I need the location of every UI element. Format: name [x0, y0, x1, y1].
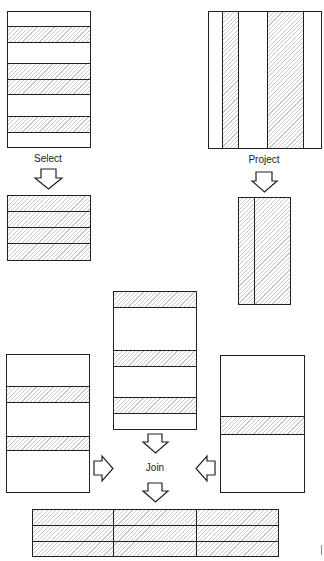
row-divider [114, 366, 196, 367]
row-divider [221, 434, 304, 435]
row-divider [8, 227, 90, 228]
join-right-table [220, 355, 305, 493]
row-divider [221, 416, 304, 417]
down-arrow-icon [251, 171, 279, 194]
join-result-table [32, 509, 279, 557]
matching-row [114, 292, 196, 308]
row-divider [7, 436, 89, 437]
selected-row [8, 117, 90, 133]
join-label: Join [146, 462, 164, 473]
row-divider [114, 307, 196, 308]
edge-mark [321, 545, 322, 555]
matching-row [7, 387, 89, 403]
row-divider [8, 243, 90, 244]
matching-row [7, 437, 89, 451]
row-divider [33, 525, 278, 526]
column-divider [303, 12, 304, 148]
column-divider [113, 510, 114, 556]
select-source-table [7, 11, 91, 148]
left-arrow-icon [194, 455, 216, 482]
project-label: Project [248, 154, 279, 165]
row-divider [8, 63, 90, 64]
matching-row [114, 398, 196, 414]
projected-column [268, 12, 304, 148]
row-divider [8, 42, 90, 43]
row-divider [7, 402, 89, 403]
row-divider [114, 413, 196, 414]
selected-row [8, 27, 90, 43]
row-divider [114, 350, 196, 351]
down-arrow-icon [142, 433, 169, 455]
column-divider [254, 198, 255, 304]
column-divider [238, 12, 239, 148]
column-divider [196, 510, 197, 556]
select-result-table [7, 195, 91, 261]
down-arrow-icon [34, 168, 64, 191]
select-label: Select [34, 153, 62, 164]
column-divider [267, 12, 268, 148]
row-divider [8, 26, 90, 27]
row-divider [8, 211, 90, 212]
row-divider [7, 450, 89, 451]
row-divider [8, 79, 90, 80]
right-arrow-icon [93, 455, 115, 482]
projected-column [223, 12, 239, 148]
row-divider [8, 94, 90, 95]
matching-row [114, 351, 196, 367]
row-divider [7, 386, 89, 387]
down-arrow-icon [142, 482, 169, 504]
matching-row [221, 417, 304, 435]
column-divider [222, 12, 223, 148]
project-source-table [208, 11, 322, 149]
row-divider [114, 397, 196, 398]
join-left-table [6, 354, 90, 493]
join-middle-table [113, 291, 197, 430]
row-divider [8, 116, 90, 117]
row-divider [33, 541, 278, 542]
project-result-table [238, 197, 291, 305]
row-divider [8, 132, 90, 133]
